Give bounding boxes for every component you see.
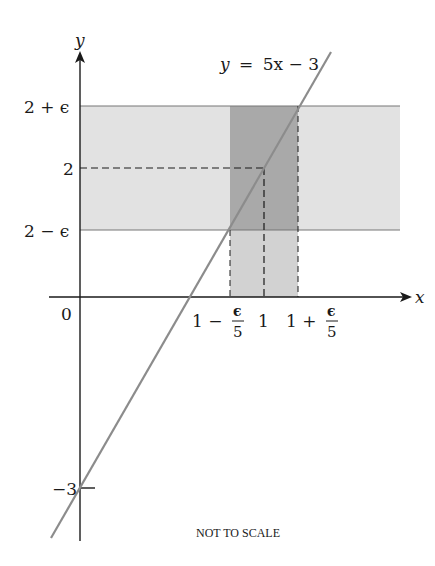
- x-tick-left-den: 5: [233, 323, 243, 341]
- x-tick-right-den: 5: [327, 323, 337, 341]
- y-tick-center: 2: [63, 159, 74, 179]
- function-label: y = 5x − 3: [219, 54, 319, 74]
- x-tick-right-whole: 1 +: [286, 311, 316, 331]
- epsilon-delta-diagram: y x 0 y = 5x − 3 2 + ϵ 2 2 − ϵ −3 1 − ϵ …: [0, 0, 435, 566]
- x-tick-right-num: ϵ: [327, 303, 336, 319]
- x-tick-center: 1: [258, 311, 269, 331]
- x-tick-left-num: ϵ: [233, 303, 242, 319]
- x-axis-label: x: [415, 287, 425, 307]
- origin-label: 0: [61, 304, 72, 324]
- caption: NOT TO SCALE: [196, 526, 280, 540]
- x-tick-left-whole: 1 −: [192, 311, 222, 331]
- y-axis-label: y: [74, 30, 85, 50]
- y-tick-intercept: −3: [52, 479, 77, 499]
- y-tick-upper: 2 + ϵ: [24, 97, 69, 117]
- y-tick-lower: 2 − ϵ: [24, 221, 69, 241]
